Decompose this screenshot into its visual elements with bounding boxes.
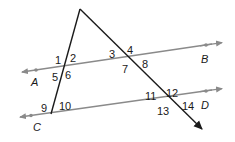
angle-12: 12 [166,87,178,99]
angle-5: 5 [52,71,58,83]
label-c: C [33,121,41,133]
angle-4: 4 [127,44,133,56]
angle-10: 10 [59,100,71,112]
angle-8: 8 [142,58,148,70]
label-a: A [30,76,38,88]
point-c-dot [29,114,33,118]
angle-3: 3 [109,48,115,60]
angle-1: 1 [55,54,61,66]
angle-labels: 1 2 3 4 5 6 7 8 9 10 11 12 13 14 [41,44,194,117]
label-d: D [201,99,209,111]
angle-2: 2 [70,52,76,64]
angle-13: 13 [157,105,169,117]
point-d-dot [204,89,208,93]
point-b-dot [204,43,208,47]
geometry-diagram: A B C D 1 2 3 4 5 6 7 8 9 10 11 12 13 14 [0,0,235,142]
label-b: B [201,53,208,65]
angle-7: 7 [122,63,128,75]
point-a-dot [34,68,38,72]
angle-11: 11 [145,90,156,102]
angle-9: 9 [41,102,47,114]
angle-14: 14 [182,100,194,112]
angle-6: 6 [65,69,71,81]
